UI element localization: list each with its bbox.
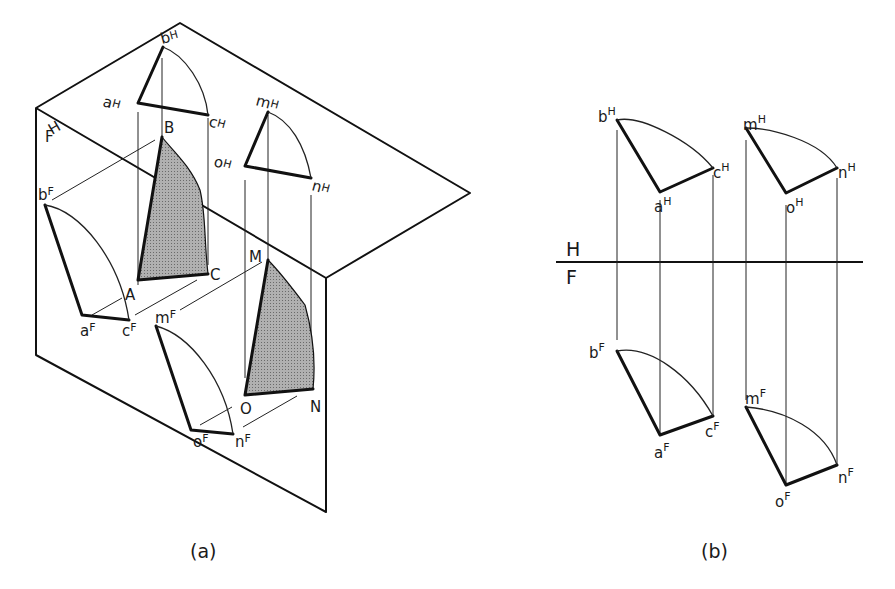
label-mf-b: mF: [745, 387, 766, 408]
fold-label-h: H: [566, 238, 580, 260]
label-point-c: C: [210, 266, 220, 284]
label-af-b: aF: [654, 441, 670, 462]
triangle-abc-h-view: [617, 119, 713, 192]
triangle-mno-h-view: [746, 128, 837, 193]
label-ah-b: aH: [654, 195, 671, 216]
label-oh-a: oH: [212, 152, 234, 174]
label-cf-b: cF: [705, 420, 720, 441]
triangle-abc-h-projection: [138, 47, 208, 115]
label-point-b: B: [164, 119, 174, 137]
label-of-b: oF: [775, 490, 791, 511]
triangle-mno-f-projection: [156, 326, 233, 434]
label-point-n: N: [310, 398, 321, 416]
label-point-a: A: [125, 286, 136, 304]
figure-b-orthographic: H F bH aH cH: [556, 105, 863, 562]
label-nf-b: nF: [838, 466, 854, 487]
label-nf-a: nF: [235, 432, 251, 451]
triangle-abc-f-projection: [45, 205, 129, 320]
label-mf-a: mF: [155, 308, 176, 327]
label-nh-b: nH: [838, 161, 856, 182]
label-bh-b: bH: [598, 105, 616, 126]
label-bf-b: bF: [589, 341, 605, 362]
label-f-plane: F: [45, 128, 54, 146]
label-mh-a: mH: [254, 91, 281, 114]
label-ah-a: aH: [101, 92, 123, 114]
label-ch-b: cH: [713, 161, 730, 182]
label-bh-a: bH: [158, 26, 180, 48]
label-point-o: O: [240, 400, 252, 418]
triangle-mno-h-projection: [245, 112, 311, 178]
figure-a-pictorial: H F B A C M O N bH aH cH mH oH nH bF aF …: [36, 23, 470, 562]
triangle-mno-f-view: [746, 407, 837, 485]
triangle-abc-f-view: [617, 350, 713, 435]
label-af-a: aF: [80, 321, 96, 340]
label-point-m: M: [249, 248, 262, 266]
caption-a: (a): [190, 540, 216, 562]
label-oh-b: oH: [786, 196, 803, 217]
label-nh-a: nH: [310, 176, 332, 198]
label-ch-a: cH: [207, 112, 228, 134]
orthographic-projection-figure: H F B A C M O N bH aH cH mH oH nH bF aF …: [0, 0, 895, 589]
fold-label-f: F: [566, 266, 577, 288]
label-mh-b: mH: [743, 113, 766, 134]
caption-b: (b): [701, 540, 728, 562]
label-bf-a: bF: [38, 185, 54, 204]
label-cf-a: cF: [122, 321, 137, 340]
